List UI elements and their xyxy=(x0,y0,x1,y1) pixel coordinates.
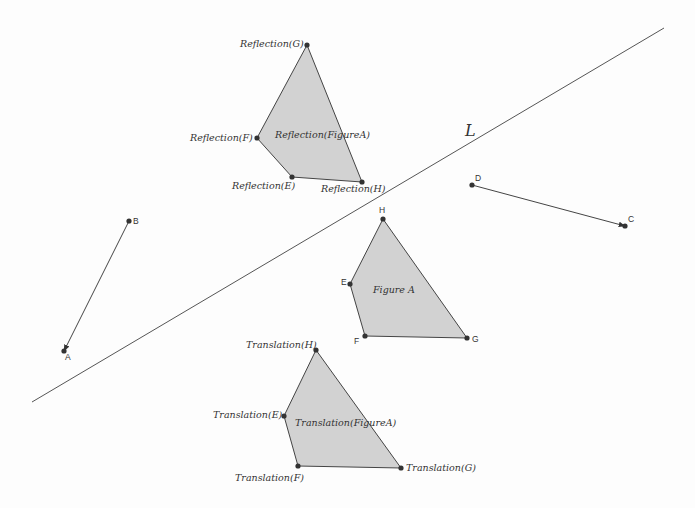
reflection-figure-a-polygon[interactable] xyxy=(257,45,362,182)
point-label-reflection-f: Reflection(F) xyxy=(189,132,253,143)
line-l[interactable] xyxy=(32,28,664,402)
point-label-h: H xyxy=(379,205,385,215)
line-l-label: L xyxy=(464,121,476,140)
point-b[interactable] xyxy=(126,218,131,223)
point-label-reflection-e: Reflection(E) xyxy=(231,180,295,191)
point-label-translation-f: Translation(F) xyxy=(235,472,304,483)
vectors-layer xyxy=(64,185,625,351)
point-label-c: C xyxy=(628,214,634,224)
point-f[interactable] xyxy=(362,333,367,338)
point-translation-g[interactable] xyxy=(398,465,403,470)
point-e[interactable] xyxy=(347,281,352,286)
point-reflection-f[interactable] xyxy=(254,135,259,140)
point-label-reflection-h: Reflection(H) xyxy=(320,183,386,194)
polygons-layer xyxy=(257,45,467,468)
vector-dc[interactable] xyxy=(472,185,625,226)
translation-figure-a-label: Translation(FigureA) xyxy=(295,417,396,428)
point-label-d: D xyxy=(475,173,481,183)
point-label-translation-h: Translation(H) xyxy=(246,339,317,350)
point-translation-f[interactable] xyxy=(295,463,300,468)
point-label-e: E xyxy=(341,277,347,287)
vector-ba[interactable] xyxy=(64,221,129,351)
figure-a-polygon[interactable] xyxy=(350,219,467,338)
point-g[interactable] xyxy=(464,335,469,340)
figure-a-label: Figure A xyxy=(372,284,415,295)
point-label-f: F xyxy=(354,336,359,346)
point-label-reflection-g: Reflection(G) xyxy=(239,38,304,49)
geometry-canvas: L Figure AEFGHReflection(FigureA)Reflect… xyxy=(0,0,695,508)
point-c[interactable] xyxy=(622,223,627,228)
point-reflection-g[interactable] xyxy=(304,42,309,47)
point-d[interactable] xyxy=(469,182,474,187)
point-reflection-e[interactable] xyxy=(289,174,294,179)
point-h[interactable] xyxy=(380,216,385,221)
point-label-translation-g: Translation(G) xyxy=(406,462,476,473)
reflection-figure-a-label: Reflection(FigureA) xyxy=(274,129,370,140)
diagram-svg: L Figure AEFGHReflection(FigureA)Reflect… xyxy=(0,0,695,508)
point-label-g: G xyxy=(472,334,479,344)
point-label-a: A xyxy=(65,352,71,362)
point-label-b: B xyxy=(133,216,139,226)
labels-layer: Figure AEFGHReflection(FigureA)Reflectio… xyxy=(65,38,634,483)
point-label-translation-e: Translation(E) xyxy=(213,409,283,420)
translation-figure-a-polygon[interactable] xyxy=(284,350,401,468)
line-layer: L xyxy=(32,28,664,402)
